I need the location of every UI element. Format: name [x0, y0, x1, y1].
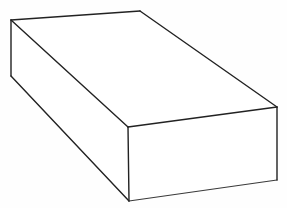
box-faces	[11, 11, 277, 201]
drawing-canvas: Rectangular box wireframe Line drawing o…	[0, 0, 287, 208]
box-figure: Rectangular box wireframe Line drawing o…	[0, 0, 287, 208]
edge-vertical-front-left	[128, 127, 129, 201]
